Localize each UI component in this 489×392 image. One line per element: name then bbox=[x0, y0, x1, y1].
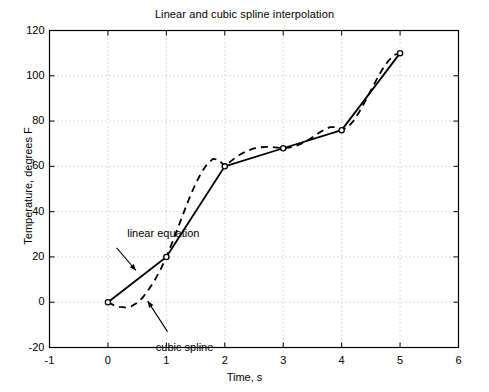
series-linear-equation bbox=[108, 53, 400, 302]
x-axis-label: Time, s bbox=[0, 371, 489, 383]
y-tick-label: 100 bbox=[5, 69, 45, 81]
x-tick-label: 6 bbox=[439, 354, 479, 366]
annotation-linear-equation: linear equation bbox=[127, 227, 199, 239]
y-tick-label: -20 bbox=[5, 341, 45, 353]
y-tick-label: 120 bbox=[5, 24, 45, 36]
x-tick-label: 3 bbox=[263, 354, 303, 366]
y-tick-label: 60 bbox=[5, 159, 45, 171]
data-point-markers bbox=[105, 51, 402, 305]
x-tick-label: 5 bbox=[380, 354, 420, 366]
x-tick-label: 2 bbox=[205, 354, 245, 366]
y-tick-label: 20 bbox=[5, 250, 45, 262]
chart-figure: Linear and cubic spline interpolation Ti… bbox=[0, 0, 489, 392]
annotation-cubic-spline: cubic spline bbox=[156, 341, 213, 353]
x-tick-label: 4 bbox=[322, 354, 362, 366]
y-tick-label: 80 bbox=[5, 114, 45, 126]
y-tick-label: 0 bbox=[5, 295, 45, 307]
y-axis-label: Temperature, degrees F bbox=[22, 66, 34, 306]
x-tick-label: 1 bbox=[146, 354, 186, 366]
x-tick-label: 0 bbox=[88, 354, 128, 366]
plot-canvas bbox=[0, 0, 489, 392]
y-tick-label: 40 bbox=[5, 205, 45, 217]
x-tick-label: -1 bbox=[30, 354, 70, 366]
